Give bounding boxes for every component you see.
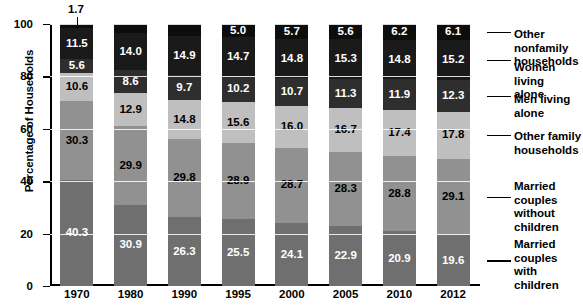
bar-segment-value: 17.4 — [388, 127, 410, 139]
bar-segment-value: 5.0 — [230, 25, 246, 37]
legend-leader-line — [487, 96, 511, 97]
bar-segment: 14.0 — [114, 33, 147, 70]
legend-item: Married couples without children — [514, 180, 583, 234]
bar-segment-value: 14.8 — [281, 53, 303, 65]
bar-segment: 16.7 — [329, 108, 362, 152]
x-axis-tick-label: 1990 — [158, 288, 212, 300]
y-axis-tick: 0 — [43, 286, 50, 287]
bar-segment: 10.2 — [222, 76, 255, 103]
callout-leader-line — [77, 17, 78, 29]
y-axis-tick-label: 40 — [20, 175, 33, 187]
bar-segment-value: 6.1 — [445, 26, 461, 38]
bar-column: 14.08.612.929.930.9 — [104, 24, 158, 286]
callout-label: 1.7 — [68, 3, 84, 15]
bar-segment-value: 15.6 — [227, 117, 249, 129]
bar-segment-value: 11.9 — [388, 89, 410, 101]
bar-segment: 15.3 — [329, 39, 362, 79]
bar-column: 5.014.710.215.628.925.5 — [211, 24, 265, 286]
legend-leader-line — [487, 32, 511, 33]
bar-segment-value: 14.9 — [173, 50, 195, 62]
x-axis-tick-label: 2000 — [265, 288, 319, 300]
x-axis-tick-label: 2012 — [426, 288, 480, 300]
y-axis-tick-label: 20 — [20, 228, 33, 240]
bar-column: 5.714.810.716.028.724.1 — [265, 24, 319, 286]
bar-segment: 14.8 — [168, 100, 201, 139]
bar-stack: 5.014.710.215.628.925.5 — [222, 24, 255, 286]
plot-area: 020406080100 11.55.610.630.340.314.08.61… — [50, 24, 480, 286]
bar-stack: 14.99.714.829.826.3 — [168, 24, 201, 286]
bar-segment: 29.1 — [437, 159, 470, 235]
bar-segment-value: 8.6 — [123, 76, 139, 88]
bar-segment: 5.0 — [222, 24, 255, 37]
y-axis-tick: 100 — [43, 24, 50, 25]
bar-segment: 25.5 — [222, 219, 255, 286]
bar-segment: 10.7 — [275, 78, 308, 106]
bar-segment: 11.9 — [383, 79, 416, 110]
bar-segment: 15.2 — [437, 40, 470, 80]
bar-stack: 11.55.610.630.340.3 — [60, 24, 93, 286]
x-axis-tick-label: 1980 — [104, 288, 158, 300]
bar-segment: 28.3 — [329, 152, 362, 226]
bar-segment: 9.7 — [168, 75, 201, 100]
bar-segment: 5.6 — [329, 24, 362, 39]
bar-segment: 20.9 — [383, 231, 416, 286]
legend-item: Married couples with children — [514, 238, 583, 292]
bar-segment-value: 28.3 — [334, 183, 356, 195]
bar-segment: 11.5 — [60, 28, 93, 58]
bar-segment: 30.9 — [114, 205, 147, 286]
bar-stack: 6.214.811.917.428.820.9 — [383, 24, 416, 286]
bar-column: 5.615.311.316.728.322.9 — [319, 24, 373, 286]
bar-column: 6.115.212.317.829.119.6 — [426, 24, 480, 286]
bar-segment-value: 24.1 — [281, 249, 303, 261]
y-axis-tick: 20 — [43, 234, 50, 235]
bar-segment-value: 16.0 — [281, 121, 303, 133]
bar-segment-value: 17.8 — [442, 129, 464, 141]
bar-segment: 26.3 — [168, 217, 201, 286]
bar-segment-value: 15.3 — [334, 53, 356, 65]
bar-segment: 11.3 — [329, 79, 362, 109]
bar-segment-value: 12.9 — [119, 104, 141, 116]
bar-segment: 5.6 — [60, 59, 93, 74]
bar-segment-value: 15.2 — [442, 54, 464, 66]
x-axis-tick-label: 1995 — [211, 288, 265, 300]
bar-segment: 24.1 — [275, 223, 308, 286]
y-axis-tick: 60 — [43, 129, 50, 130]
bar-segment: 28.8 — [383, 156, 416, 231]
legend-leader-line — [487, 60, 511, 61]
x-axis-tick-label: 1970 — [50, 288, 104, 300]
bar-segment: 12.3 — [437, 80, 470, 112]
bar-segment-value: 22.9 — [334, 250, 356, 262]
bar-stack: 5.714.810.716.028.724.1 — [275, 24, 308, 286]
bar-segment: 16.0 — [275, 106, 308, 148]
bar-segment-value: 14.8 — [388, 54, 410, 66]
bar-segment-value: 10.2 — [227, 83, 249, 95]
bar-segment: 17.8 — [437, 112, 470, 159]
bar-segment: 19.6 — [437, 235, 470, 286]
legend-leader-line — [487, 260, 511, 261]
bar-segment-value: 28.8 — [388, 188, 410, 200]
bar-segment: 14.7 — [222, 37, 255, 76]
bar-segment: 6.1 — [437, 24, 470, 40]
bar-segment-value: 6.2 — [391, 26, 407, 38]
bar-column: 11.55.610.630.340.3 — [50, 24, 104, 286]
bar-segment-value: 29.1 — [442, 191, 464, 203]
legend: Other nonfamily householdsWomen living a… — [487, 0, 583, 305]
bar-segment: 28.7 — [275, 148, 308, 223]
y-axis-tick-label: 0 — [27, 280, 33, 292]
bar-segment-value: 16.7 — [334, 124, 356, 136]
bar-segment: 29.8 — [168, 139, 201, 217]
y-axis-tick: 40 — [43, 181, 50, 182]
y-axis-tick: 80 — [43, 76, 50, 77]
bar-segment: 40.3 — [60, 180, 93, 286]
bar-segment: 15.6 — [222, 102, 255, 143]
bar-stack: 5.615.311.316.728.322.9 — [329, 24, 362, 286]
bar-segment-value: 40.3 — [66, 227, 88, 239]
bar-segment-value: 30.9 — [119, 239, 141, 251]
bar-segment-value: 19.6 — [442, 255, 464, 267]
bar-segment-value: 10.6 — [66, 81, 88, 93]
bar-segment: 14.8 — [275, 39, 308, 78]
bar-segment: 5.7 — [275, 24, 308, 39]
bar-segment — [114, 24, 147, 33]
bar-segment — [168, 24, 201, 36]
bar-segment-value: 14.0 — [119, 46, 141, 58]
